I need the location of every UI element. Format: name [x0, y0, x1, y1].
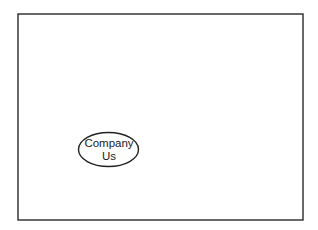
diagram-canvas: Company Us: [0, 0, 318, 230]
node-label-line-1: Company: [84, 137, 133, 149]
node-label-line-2: Us: [102, 150, 116, 162]
node-company[interactable]: Company Us: [79, 133, 139, 167]
frame-border: [18, 14, 303, 220]
